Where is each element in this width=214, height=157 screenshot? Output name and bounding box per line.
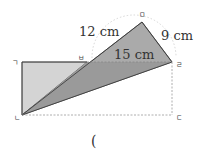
label-12cm: 12 cm — [79, 24, 119, 39]
label-9cm: 9 cm — [161, 28, 193, 43]
geometry-figure: 12 cm 9 cm 15 cm ㄱ ㄴ ㄷ ㄹ ㅁ ㅂ ( — [0, 0, 214, 157]
vertex-d: ㄷ — [176, 114, 182, 122]
vertex-r: ㄹ — [176, 61, 182, 69]
vertex-b: ㅂ — [78, 54, 84, 62]
label-15cm: 15 cm — [114, 47, 154, 62]
vertex-n: ㄴ — [14, 114, 20, 122]
vertex-m: ㅁ — [139, 11, 145, 19]
answer-paren: ( — [91, 133, 96, 149]
vertex-g: ㄱ — [12, 59, 18, 67]
